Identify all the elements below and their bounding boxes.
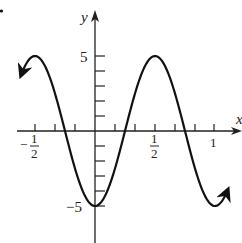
svg-text:−: − bbox=[20, 137, 27, 152]
svg-text:2: 2 bbox=[31, 146, 38, 161]
x-tick-label-half: 1 2 bbox=[150, 131, 159, 161]
chart-canvas: x y 5 −5 − 1 2 1 2 bbox=[0, 0, 242, 243]
y-axis-label: y bbox=[79, 9, 88, 25]
bullet-dot bbox=[0, 9, 3, 12]
svg-text:2: 2 bbox=[151, 146, 158, 161]
x-axis-label: x bbox=[235, 111, 242, 127]
x-tick-label-neg-half: − 1 2 bbox=[20, 131, 39, 161]
y-tick-label-neg5: −5 bbox=[66, 199, 82, 215]
svg-text:1: 1 bbox=[151, 131, 158, 146]
y-tick-label-5: 5 bbox=[80, 49, 88, 65]
svg-text:1: 1 bbox=[31, 131, 38, 146]
x-tick-label-one: 1 bbox=[210, 135, 217, 150]
